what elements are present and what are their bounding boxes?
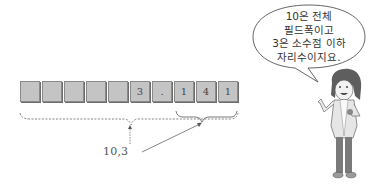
left-shoe <box>333 172 343 178</box>
decimal-places-brace <box>176 111 237 122</box>
right-shoe <box>346 172 356 178</box>
width-pointer-arrowhead <box>128 125 132 129</box>
bubble-line: 필드폭이고 <box>256 24 362 38</box>
face <box>335 80 353 100</box>
bubble-line: 자리수이지요. <box>256 51 362 65</box>
bubble-line: 10은 전체 <box>256 10 362 24</box>
format-spec-label: 10,3 <box>103 145 128 158</box>
left-leg <box>336 137 343 173</box>
total-width-brace <box>20 113 238 125</box>
teacher-character <box>318 69 361 178</box>
raised-arm <box>318 99 334 112</box>
bubble-line: 3은 소수점 이하 <box>256 37 362 51</box>
speech-bubble-text: 10은 전체 필드폭이고 3은 소수점 이하 자리수이지요. <box>256 10 362 64</box>
right-leg <box>345 137 352 173</box>
decimal-pointer-line <box>142 124 200 152</box>
